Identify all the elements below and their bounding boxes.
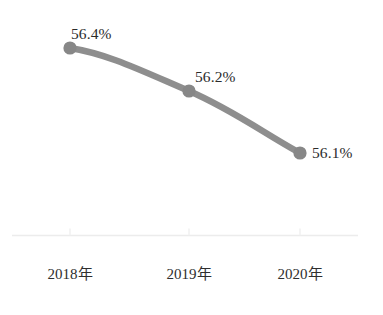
series-line [70,48,300,153]
data-point-marker-2018 [63,41,76,54]
data-label-2019: 56.2% [195,69,236,85]
x-axis-label-2019: 2019年 [151,267,227,282]
data-label-2020: 56.1% [312,145,353,161]
data-point-marker-2020 [293,146,306,159]
data-point-marker-2019 [182,84,195,97]
x-axis-label-2020: 2020年 [262,267,338,282]
data-label-2018: 56.4% [71,26,112,42]
x-axis-label-2018: 2018年 [32,267,108,282]
line-chart: 56.4% 56.2% 56.1% 2018年 2019年 2020年 [0,0,383,315]
